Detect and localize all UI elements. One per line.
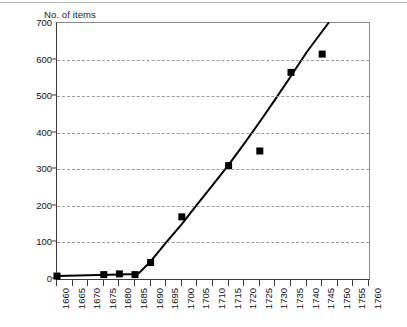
x-tick-mark	[228, 280, 229, 286]
x-tick-label: 1710	[216, 288, 227, 309]
data-point-marker	[147, 259, 154, 266]
x-tick-mark	[181, 280, 182, 286]
gridline	[57, 206, 369, 207]
x-tick-mark	[103, 280, 104, 286]
x-tick-label: 1660	[60, 288, 71, 309]
y-tick-label: 300	[6, 163, 52, 174]
plot-area	[56, 22, 370, 280]
x-axis: 1660166516701675168016851690169517001705…	[56, 280, 370, 327]
x-tick-mark	[196, 280, 197, 286]
x-tick-label: 1685	[138, 288, 149, 309]
data-point-marker	[100, 271, 107, 278]
y-axis: 0100200300400500600700	[0, 22, 52, 280]
gridline	[57, 133, 369, 134]
x-tick-label: 1680	[122, 288, 133, 309]
figure-top-rule	[0, 2, 407, 3]
trend-line	[57, 23, 328, 276]
x-tick-mark	[118, 280, 119, 286]
x-tick-mark	[243, 280, 244, 286]
gridline	[57, 96, 369, 97]
gridline	[57, 60, 369, 61]
x-tick-mark	[368, 280, 369, 286]
y-tick-label: 0	[6, 273, 52, 284]
x-tick-mark	[259, 280, 260, 286]
chart-figure: No. of items 0100200300400500600700 1660…	[0, 0, 407, 327]
data-point-marker	[288, 69, 295, 76]
x-tick-label: 1735	[294, 288, 305, 309]
data-point-marker	[54, 273, 61, 280]
x-tick-label: 1745	[325, 288, 336, 309]
data-point-marker	[178, 213, 185, 220]
y-tick-label: 600	[6, 53, 52, 64]
x-tick-label: 1760	[372, 288, 383, 309]
x-tick-mark	[87, 280, 88, 286]
data-point-marker	[256, 148, 263, 155]
x-tick-mark	[150, 280, 151, 286]
x-tick-label: 1675	[107, 288, 118, 309]
y-tick-label: 400	[6, 126, 52, 137]
x-tick-mark	[56, 280, 57, 286]
x-tick-label: 1705	[200, 288, 211, 309]
y-tick-label: 500	[6, 90, 52, 101]
x-tick-mark	[352, 280, 353, 286]
gridline	[57, 242, 369, 243]
y-tick-label: 200	[6, 199, 52, 210]
x-tick-label: 1700	[185, 288, 196, 309]
x-tick-label: 1730	[278, 288, 289, 309]
data-point-marker	[319, 51, 326, 58]
x-tick-label: 1725	[263, 288, 274, 309]
x-tick-label: 1690	[154, 288, 165, 309]
data-point-marker	[116, 270, 123, 277]
x-tick-label: 1715	[232, 288, 243, 309]
data-point-marker	[225, 162, 232, 169]
x-tick-label: 1695	[169, 288, 180, 309]
x-tick-label: 1755	[356, 288, 367, 309]
x-tick-label: 1720	[247, 288, 258, 309]
data-point-marker	[132, 271, 139, 278]
x-tick-mark	[72, 280, 73, 286]
gridline	[57, 169, 369, 170]
y-tick-label: 100	[6, 236, 52, 247]
x-tick-mark	[337, 280, 338, 286]
x-tick-mark	[306, 280, 307, 286]
x-tick-mark	[134, 280, 135, 286]
x-tick-mark	[212, 280, 213, 286]
x-tick-label: 1740	[310, 288, 321, 309]
x-tick-label: 1665	[76, 288, 87, 309]
x-tick-label: 1670	[91, 288, 102, 309]
x-tick-label: 1750	[341, 288, 352, 309]
series-layer	[57, 23, 369, 279]
x-tick-mark	[165, 280, 166, 286]
x-tick-mark	[290, 280, 291, 286]
y-tick-label: 700	[6, 17, 52, 28]
x-tick-mark	[321, 280, 322, 286]
x-tick-mark	[274, 280, 275, 286]
